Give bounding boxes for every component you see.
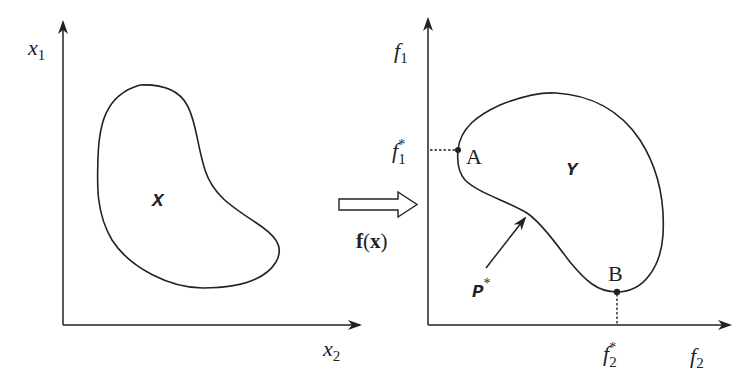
f1-axis-label: f1: [394, 38, 408, 66]
f1-star-label: f*1: [392, 137, 406, 167]
point-a-label: A: [466, 144, 482, 169]
objective-space-panel: f1 f2 f*1 f*2 A B Y P*: [392, 19, 730, 371]
point-b-label: B: [608, 261, 623, 286]
pareto-front-label: P*: [472, 276, 490, 303]
hollow-arrow-icon: [339, 192, 417, 217]
decision-region-x: [98, 85, 280, 288]
mapping-function-label: f(x): [356, 229, 388, 253]
pareto-front-pointer: [486, 218, 525, 268]
point-b-marker: [614, 289, 620, 295]
multiobjective-mapping-diagram: x1 x2 X f(x) f1 f2 f*1 f*2 A B Y P*: [0, 0, 752, 378]
region-x-label: X: [151, 190, 165, 212]
f2-star-label: f*2: [603, 340, 617, 370]
x1-axis-label: x1: [27, 35, 45, 63]
region-y-label: Y: [566, 159, 579, 181]
x2-axis-label: x2: [322, 336, 340, 364]
f2-axis-label: f2: [690, 343, 704, 371]
decision-space-panel: x1 x2 X: [27, 22, 360, 364]
objective-region-y: [458, 93, 664, 292]
point-a-marker: [455, 147, 461, 153]
mapping-arrow: f(x): [339, 192, 417, 253]
